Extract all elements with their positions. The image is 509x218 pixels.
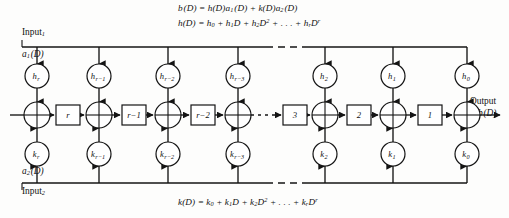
delay-box-2: r−2 (191, 105, 215, 125)
filter-structure-diagram: hrhr−1hr−2hr−3h2h1h0krkr−1kr−2kr−3k2k1k0… (0, 0, 509, 218)
svg-text:1: 1 (428, 110, 432, 120)
multiplier-tap-h-0: hr (25, 64, 49, 88)
adder-6 (454, 102, 480, 128)
adder-3 (225, 102, 251, 128)
delay-box-5: 1 (418, 105, 442, 125)
svg-text:r−1: r−1 (127, 110, 140, 120)
multiplier-tap-k-0: kr (25, 142, 49, 166)
adder-0 (24, 102, 50, 128)
multiplier-tap-k-6: k0 (455, 142, 479, 166)
adder-2 (155, 102, 181, 128)
delay-box-3: 3 (283, 105, 307, 125)
multiplier-tap-k-3: kr−3 (226, 142, 250, 166)
adder-1 (86, 102, 112, 128)
multiplier-tap-k-1: kr−1 (87, 142, 111, 166)
delay-box-1: r−1 (122, 105, 146, 125)
multiplier-tap-h-6: h0 (455, 64, 479, 88)
multiplier-tap-h-5: h1 (381, 64, 405, 88)
delay-box-4: 2 (347, 105, 371, 125)
adder-5 (380, 102, 406, 128)
multiplier-tap-h-2: hr−2 (156, 64, 180, 88)
multiplier-tap-k-2: kr−2 (156, 142, 180, 166)
multiplier-tap-h-1: hr−1 (87, 64, 111, 88)
multiplier-tap-h-3: hr−3 (226, 64, 250, 88)
svg-text:r−2: r−2 (196, 110, 210, 120)
delay-box-0: r (56, 105, 80, 125)
multiplier-tap-k-4: k2 (313, 142, 337, 166)
adder-4 (312, 102, 338, 128)
svg-text:2: 2 (357, 110, 362, 120)
multiplier-tap-k-5: k1 (381, 142, 405, 166)
svg-text:3: 3 (292, 110, 297, 120)
multiplier-tap-h-4: h2 (313, 64, 337, 88)
figure-canvas: b (D) = h(D)a1 (D) + k(D)a2 (D) h(D) = h… (0, 0, 509, 218)
